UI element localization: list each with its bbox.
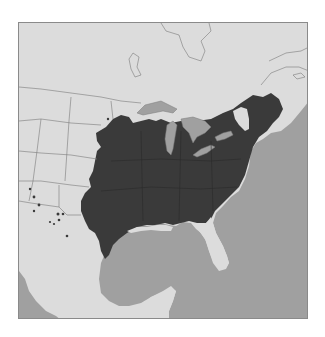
range-map (18, 22, 308, 319)
map-canvas (19, 23, 308, 319)
